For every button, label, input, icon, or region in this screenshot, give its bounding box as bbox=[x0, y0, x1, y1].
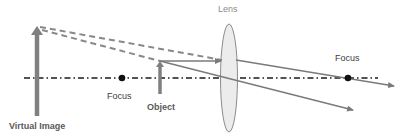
focus-label-right: Focus bbox=[335, 53, 360, 63]
lens-label: Lens bbox=[218, 4, 238, 14]
virtual-image-label: Virtual Image bbox=[9, 121, 65, 131]
focus-point-left bbox=[119, 75, 126, 82]
focus-point-right bbox=[345, 75, 352, 82]
virtual-ray-extension-top bbox=[40, 27, 222, 60]
ray-through-center bbox=[160, 61, 353, 110]
ray-diagram bbox=[0, 0, 406, 138]
focus-label-left: Focus bbox=[107, 91, 132, 101]
ray-parallel-refracted bbox=[236, 60, 394, 86]
object-label: Object bbox=[147, 102, 175, 112]
